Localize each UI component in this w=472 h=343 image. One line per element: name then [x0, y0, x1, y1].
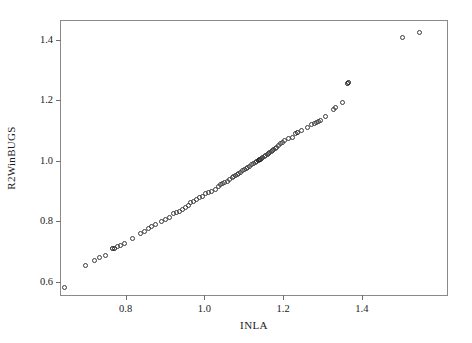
y-tick-mark — [56, 161, 61, 162]
plot-area — [61, 21, 447, 295]
x-tick-label: 1.0 — [198, 304, 211, 315]
data-point — [153, 222, 158, 227]
x-tick-label: 0.8 — [119, 304, 132, 315]
y-tick-mark — [56, 40, 61, 41]
x-tick-mark — [126, 295, 127, 300]
data-point — [417, 30, 422, 35]
data-point — [167, 215, 172, 220]
y-tick-label: 1.2 — [40, 95, 53, 106]
data-point — [122, 241, 127, 246]
x-tick-mark — [362, 295, 363, 300]
data-point — [318, 118, 323, 123]
plot-frame: 0.60.81.01.21.40.81.01.21.4 — [60, 20, 448, 296]
data-point — [346, 80, 351, 85]
data-point — [92, 258, 97, 263]
y-tick-label: 1.4 — [40, 35, 53, 46]
data-point — [333, 105, 338, 110]
data-point — [62, 285, 67, 290]
y-tick-mark — [56, 282, 61, 283]
data-point — [400, 35, 405, 40]
y-axis-title: R2WinBUGS — [0, 20, 22, 296]
x-tick-label: 1.2 — [277, 304, 290, 315]
y-axis-title-text: R2WinBUGS — [5, 126, 17, 189]
x-tick-mark — [283, 295, 284, 300]
data-point — [103, 253, 108, 258]
y-tick-label: 0.8 — [40, 216, 53, 227]
x-tick-label: 1.4 — [355, 304, 368, 315]
data-point — [323, 114, 328, 119]
x-tick-mark — [204, 295, 205, 300]
y-tick-mark — [56, 221, 61, 222]
scatter-plot-figure: R2WinBUGS 0.60.81.01.21.40.81.01.21.4 IN… — [0, 0, 472, 343]
data-point — [97, 255, 102, 260]
x-axis-title: INLA — [60, 319, 448, 331]
data-point — [299, 128, 304, 133]
data-point — [130, 236, 135, 241]
y-tick-label: 1.0 — [40, 156, 53, 167]
data-point — [83, 263, 88, 268]
y-tick-mark — [56, 100, 61, 101]
y-tick-label: 0.6 — [40, 277, 53, 288]
data-point — [340, 100, 345, 105]
